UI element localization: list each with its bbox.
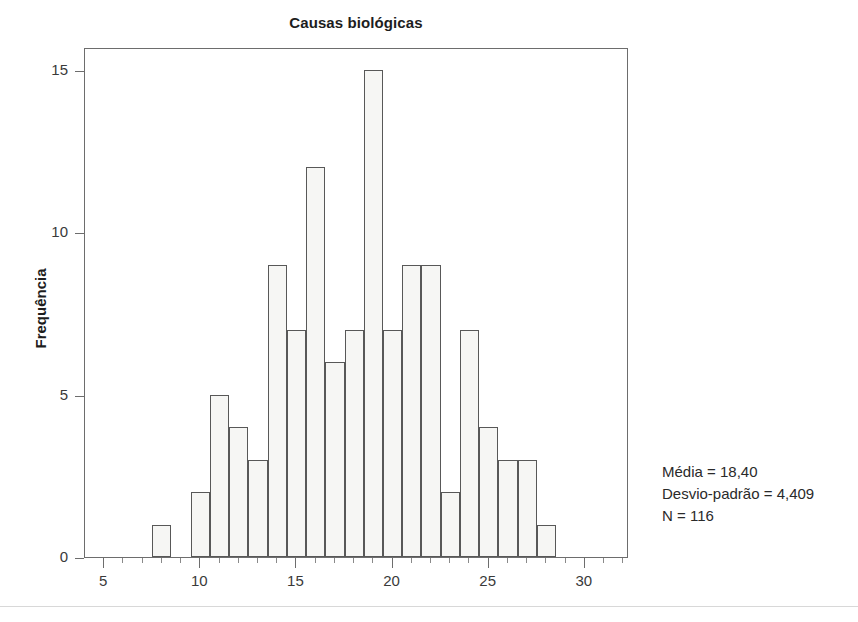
x-tick-mark-major (199, 558, 200, 568)
histogram-bar (518, 460, 537, 557)
x-tick-mark-major (584, 558, 585, 568)
histogram-bar (345, 330, 364, 557)
x-tick-mark-minor (122, 558, 123, 563)
histogram-bar (248, 460, 267, 557)
x-tick-mark-minor (603, 558, 604, 563)
y-tick-label: 5 (28, 386, 68, 403)
x-tick-mark-minor (276, 558, 277, 563)
histogram-bar (421, 265, 440, 557)
y-tick-mark (75, 558, 84, 559)
histogram-bar (229, 427, 248, 557)
histogram-bar (364, 70, 383, 557)
histogram-bar (498, 460, 517, 557)
x-tick-mark-minor (565, 558, 566, 563)
x-tick-mark-minor (161, 558, 162, 563)
histogram-bar (152, 525, 171, 557)
x-tick-label: 25 (468, 572, 508, 589)
histogram-bar (191, 492, 210, 557)
y-tick-mark (75, 71, 84, 72)
x-tick-mark-major (488, 558, 489, 568)
x-tick-mark-minor (411, 558, 412, 563)
histogram-bar (460, 330, 479, 557)
x-tick-mark-minor (468, 558, 469, 563)
x-tick-mark-minor (180, 558, 181, 563)
x-tick-mark-major (295, 558, 296, 568)
x-tick-label: 10 (179, 572, 219, 589)
x-tick-mark-major (392, 558, 393, 568)
histogram-bar (268, 265, 287, 557)
histogram-bar (402, 265, 421, 557)
y-tick-mark (75, 233, 84, 234)
histogram-bar (210, 395, 229, 557)
histogram-bar (537, 525, 556, 557)
x-tick-mark-minor (238, 558, 239, 563)
histogram-bar (383, 330, 402, 557)
x-tick-mark-minor (449, 558, 450, 563)
plot-area (84, 48, 628, 558)
y-tick-label: 10 (28, 223, 68, 240)
x-tick-mark-minor (545, 558, 546, 563)
x-tick-mark-minor (353, 558, 354, 563)
legend-sample-size: N = 116 (662, 505, 814, 527)
histogram-bar (479, 427, 498, 557)
histogram-bar (287, 330, 306, 557)
y-axis-title: Frequência (32, 229, 49, 389)
y-tick-mark (75, 396, 84, 397)
y-tick-label: 0 (28, 548, 68, 565)
legend-mean: Média = 18,40 (662, 461, 814, 483)
x-tick-mark-minor (219, 558, 220, 563)
x-tick-mark-minor (507, 558, 508, 563)
chart-title: Causas biológicas (84, 14, 628, 31)
histogram-bar (441, 492, 460, 557)
x-tick-mark-minor (526, 558, 527, 563)
x-tick-mark-minor (430, 558, 431, 563)
x-tick-mark-minor (142, 558, 143, 563)
x-tick-mark-minor (622, 558, 623, 563)
x-tick-label: 30 (564, 572, 604, 589)
statistics-legend: Média = 18,40 Desvio-padrão = 4,409 N = … (662, 461, 814, 527)
x-tick-mark-minor (315, 558, 316, 563)
histogram-figure: Causas biológicas Frequência 051015 5101… (0, 0, 858, 622)
x-tick-label: 5 (83, 572, 123, 589)
x-tick-mark-major (103, 558, 104, 568)
legend-standard-deviation: Desvio-padrão = 4,409 (662, 483, 814, 505)
bars-layer (85, 49, 627, 557)
x-tick-mark-minor (257, 558, 258, 563)
page-divider (0, 606, 858, 607)
x-tick-label: 20 (372, 572, 412, 589)
x-tick-label: 15 (275, 572, 315, 589)
histogram-bar (325, 362, 344, 557)
x-tick-mark-minor (334, 558, 335, 563)
histogram-bar (306, 167, 325, 557)
x-tick-mark-minor (372, 558, 373, 563)
y-tick-label: 15 (28, 61, 68, 78)
